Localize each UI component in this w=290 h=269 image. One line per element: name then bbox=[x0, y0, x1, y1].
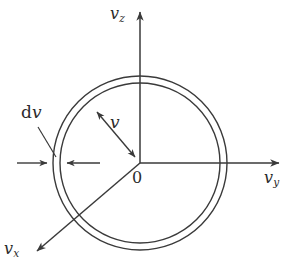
axis-line-vx bbox=[37, 163, 140, 251]
axis-label-vz-sub: z bbox=[119, 12, 125, 24]
radius-label-v: v bbox=[110, 114, 120, 131]
origin-label: 0 bbox=[132, 170, 142, 186]
dv-label-d: d bbox=[21, 102, 32, 122]
dv-label-v: v bbox=[32, 102, 42, 122]
dv-leader-line bbox=[38, 127, 56, 157]
shell-thickness-label-dv: dv bbox=[21, 104, 42, 121]
axis-label-vx-sub: x bbox=[13, 247, 19, 259]
radius-label-v-main: v bbox=[110, 112, 120, 132]
axis-label-vy-main: v bbox=[264, 168, 273, 187]
axis-label-vz-main: v bbox=[110, 4, 119, 23]
diagram-canvas bbox=[0, 0, 290, 269]
axis-label-vx-main: v bbox=[4, 239, 13, 258]
axis-label-vy: vy bbox=[264, 170, 279, 186]
axis-label-vx: vx bbox=[4, 241, 19, 257]
axis-label-vy-sub: y bbox=[273, 176, 279, 188]
axis-label-vz: vz bbox=[110, 6, 125, 22]
velocity-space-diagram: vz vy vx dv v 0 bbox=[0, 0, 290, 269]
